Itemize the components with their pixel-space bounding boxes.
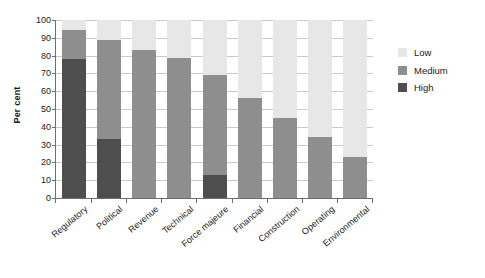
legend-label: High bbox=[414, 83, 434, 93]
y-axis-tick-label: 40 bbox=[41, 122, 51, 132]
legend-swatch-icon bbox=[398, 66, 407, 75]
plot-wrapper: 1009080706050403020100 bbox=[55, 20, 373, 198]
bar-environmental[interactable] bbox=[343, 20, 367, 198]
bar-segment-low bbox=[132, 20, 156, 50]
bar-segment-medium bbox=[273, 118, 297, 198]
x-axis-label-revenue: Revenue bbox=[126, 204, 160, 235]
bar-technical[interactable] bbox=[167, 20, 191, 198]
bar-segment-medium bbox=[62, 30, 86, 59]
bar-segment-medium bbox=[238, 98, 262, 198]
bar-segment-medium bbox=[308, 137, 332, 198]
y-axis-tick-label: 70 bbox=[41, 68, 51, 78]
x-axis-label-political: Political bbox=[94, 204, 124, 232]
bar-political[interactable] bbox=[97, 20, 121, 198]
bar-segment-high bbox=[62, 59, 86, 198]
bar-segment-medium bbox=[343, 157, 367, 198]
bar-segment-low bbox=[167, 20, 191, 58]
bar-segment-low bbox=[308, 20, 332, 137]
y-axis-tick-label: 80 bbox=[41, 51, 51, 61]
bar-segment-low bbox=[97, 20, 121, 40]
x-axis-label-financial: Financial bbox=[232, 204, 266, 235]
bar-segment-low bbox=[62, 20, 86, 30]
legend-item-low[interactable]: Low bbox=[398, 48, 448, 58]
y-axis-title: Per cent bbox=[8, 0, 26, 210]
y-axis-tick-label: 20 bbox=[41, 157, 51, 167]
bar-revenue[interactable] bbox=[132, 20, 156, 198]
y-axis-tick-label: 10 bbox=[41, 175, 51, 185]
bars-container bbox=[56, 20, 373, 198]
legend-label: Medium bbox=[414, 66, 448, 76]
bar-segment-medium bbox=[167, 58, 191, 198]
y-axis-title-text: Per cent bbox=[12, 86, 22, 123]
legend-item-high[interactable]: High bbox=[398, 83, 448, 93]
plot-area: 1009080706050403020100 bbox=[55, 20, 373, 198]
bar-segment-low bbox=[238, 20, 262, 98]
bar-force-majeure[interactable] bbox=[203, 20, 227, 198]
y-axis-tick-label: 60 bbox=[41, 86, 51, 96]
legend-swatch-icon bbox=[398, 48, 407, 57]
bar-financial[interactable] bbox=[238, 20, 262, 198]
bar-segment-low bbox=[343, 20, 367, 157]
bar-construction[interactable] bbox=[273, 20, 297, 198]
x-axis-labels: RegulatoryPoliticalRevenueTechnicalForce… bbox=[0, 200, 485, 278]
y-axis-tick-label: 30 bbox=[41, 140, 51, 150]
x-axis-label-regulatory: Regulatory bbox=[50, 204, 90, 240]
y-axis-tick-label: 100 bbox=[36, 15, 51, 25]
bar-segment-high bbox=[203, 175, 227, 198]
bar-segment-low bbox=[273, 20, 297, 118]
legend-swatch-icon bbox=[398, 83, 407, 92]
bar-operating[interactable] bbox=[308, 20, 332, 198]
stacked-bar-chart: Per cent 1009080706050403020100 Regulato… bbox=[0, 0, 485, 278]
y-axis-tick-label: 90 bbox=[41, 33, 51, 43]
bar-segment-medium bbox=[203, 75, 227, 175]
bar-segment-low bbox=[203, 20, 227, 75]
bar-segment-high bbox=[97, 139, 121, 198]
bar-segment-medium bbox=[132, 50, 156, 198]
legend: LowMediumHigh bbox=[398, 48, 448, 93]
legend-label: Low bbox=[414, 48, 431, 58]
bar-regulatory[interactable] bbox=[62, 20, 86, 198]
y-axis-tick-label: 50 bbox=[41, 104, 51, 114]
bar-segment-medium bbox=[97, 40, 121, 139]
legend-item-medium[interactable]: Medium bbox=[398, 66, 448, 76]
